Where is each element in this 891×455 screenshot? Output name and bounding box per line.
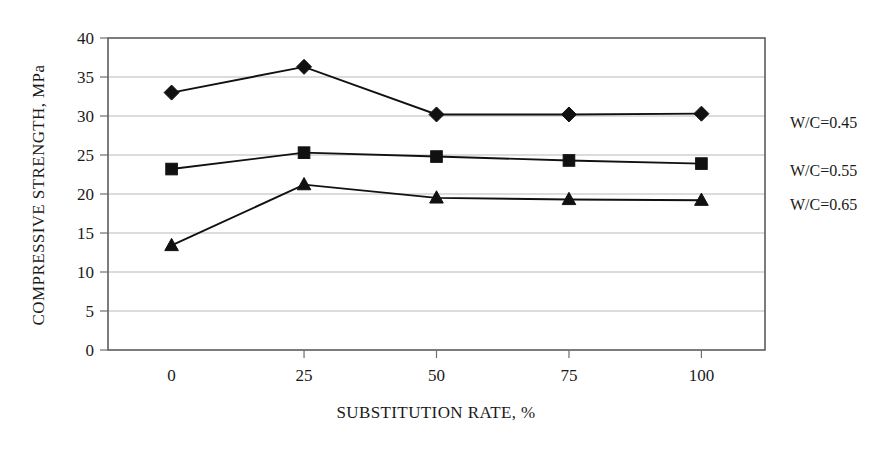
y-tick-label: 40 (77, 29, 94, 48)
series-1 (164, 59, 709, 122)
x-tick-label: 75 (560, 366, 577, 385)
line-chart: 0510152025303540 0255075100 W/C=0.45W/C=… (0, 0, 891, 455)
marker-diamond (561, 107, 576, 122)
marker-triangle (695, 193, 709, 205)
y-axis-title: COMPRESSIVE STRENGTH, MPa (29, 65, 48, 326)
marker-square (696, 158, 708, 170)
y-tick-label: 30 (77, 107, 94, 126)
legend-label-2: W/C=0.55 (790, 162, 857, 179)
legend-label-3: W/C=0.65 (790, 196, 857, 213)
x-tick-label: 100 (689, 366, 715, 385)
x-axis-ticks (304, 350, 701, 358)
marker-triangle (297, 178, 311, 190)
y-axis-tick-labels: 0510152025303540 (77, 29, 108, 360)
x-tick-label: 0 (167, 366, 176, 385)
marker-square (563, 155, 575, 167)
marker-triangle (165, 238, 179, 250)
x-axis-tick-labels: 0255075100 (167, 366, 714, 385)
y-tick-label: 25 (77, 146, 94, 165)
series-2 (166, 147, 707, 175)
x-tick-label: 50 (428, 366, 445, 385)
marker-square (166, 163, 178, 175)
marker-diamond (297, 59, 312, 74)
marker-diamond (694, 106, 709, 121)
legend-label-1: W/C=0.45 (790, 114, 857, 131)
chart-figure: 0510152025303540 0255075100 W/C=0.45W/C=… (0, 0, 891, 455)
y-tick-label: 15 (77, 224, 94, 243)
x-axis-title: SUBSTITUTION RATE, % (336, 403, 535, 422)
marker-square (298, 147, 310, 159)
legend: W/C=0.45W/C=0.55W/C=0.65 (790, 114, 857, 213)
marker-square (431, 151, 443, 163)
marker-diamond (429, 107, 444, 122)
y-tick-label: 10 (77, 263, 94, 282)
y-tick-label: 5 (86, 302, 95, 321)
x-tick-label: 25 (296, 366, 313, 385)
series-3 (165, 178, 708, 251)
marker-diamond (164, 85, 179, 100)
y-tick-label: 0 (86, 341, 95, 360)
y-tick-label: 20 (77, 185, 94, 204)
y-tick-label: 35 (77, 68, 94, 87)
